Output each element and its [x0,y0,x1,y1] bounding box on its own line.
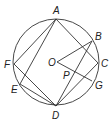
point-label-c: C [101,58,109,69]
circle-diagram: ABCGDEFOP [0,0,110,125]
point-label-d: D [52,110,59,121]
circle [13,19,99,105]
point-label-a: A [52,5,60,16]
point-label-p: P [63,70,70,81]
point-label-b: B [95,31,102,42]
point-label-g: G [95,80,103,91]
geometry-diagram: ABCGDEFOP [0,0,110,125]
segment-db [56,41,92,106]
point-label-f: F [4,59,11,70]
point-label-o: O [48,57,56,68]
point-label-e: E [11,84,18,95]
segment-ed [20,84,56,106]
